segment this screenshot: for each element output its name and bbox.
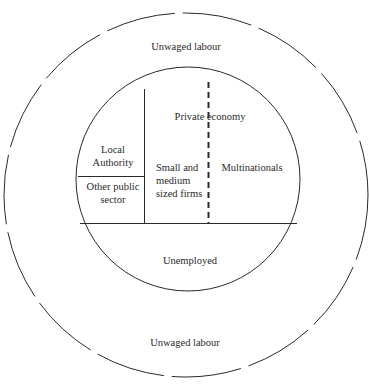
unemployed-label: Unemployed xyxy=(140,254,240,267)
other-public-sector-label: Other public sector xyxy=(85,180,141,206)
unwaged-labour-bottom-label: Unwaged labour xyxy=(135,336,235,349)
small-medium-firms-label: Small and medium sized firms xyxy=(156,161,208,200)
multinationals-label: Multinationals xyxy=(212,161,292,174)
unwaged-labour-top-label: Unwaged labour xyxy=(136,40,236,53)
local-authority-label: Local Authority xyxy=(85,143,141,169)
private-economy-label: Private economy xyxy=(160,110,260,123)
